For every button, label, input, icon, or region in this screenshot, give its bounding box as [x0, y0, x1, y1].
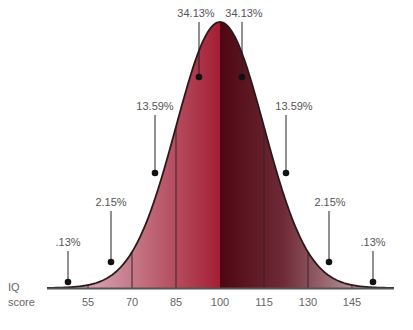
x-tick-label: 100	[211, 296, 229, 308]
curve-fill	[40, 0, 400, 290]
x-tick-label: 85	[170, 296, 182, 308]
callout-dot	[65, 279, 72, 286]
percent-label: 34.13%	[225, 7, 263, 19]
callout-dot	[108, 259, 115, 266]
x-tick-label: 130	[299, 296, 317, 308]
callout-dot	[152, 170, 159, 177]
callout-dot	[370, 279, 377, 286]
percent-callout: 2.15%	[314, 196, 345, 265]
percent-callout: .13%	[360, 236, 385, 285]
callout-dot	[326, 259, 333, 266]
percent-callout: .13%	[55, 236, 80, 285]
x-tick-label: 145	[343, 296, 361, 308]
percent-callout: 2.15%	[95, 196, 126, 265]
percent-label: 13.59%	[136, 100, 174, 112]
percent-label: 13.59%	[275, 100, 313, 112]
callout-dot	[283, 170, 290, 177]
percent-label: 2.15%	[95, 196, 126, 208]
percent-label: 2.15%	[314, 196, 345, 208]
percent-label: .13%	[55, 236, 80, 248]
x-tick-label: 70	[126, 296, 138, 308]
callout-dot	[196, 74, 203, 81]
percent-callout: 13.59%	[275, 100, 313, 176]
x-tick-label: 115	[255, 296, 273, 308]
x-axis-label-line1: IQ	[8, 281, 20, 293]
percent-label: 34.13%	[177, 7, 215, 19]
x-tick-label: 55	[82, 296, 94, 308]
x-axis-ticks: 557085100115130145	[82, 296, 361, 308]
iq-distribution-chart: .13%2.15%13.59%34.13%34.13%13.59%2.15%.1…	[0, 0, 413, 330]
percent-label: .13%	[360, 236, 385, 248]
x-axis-label-line2: score	[8, 296, 35, 308]
callout-dot	[239, 74, 246, 81]
